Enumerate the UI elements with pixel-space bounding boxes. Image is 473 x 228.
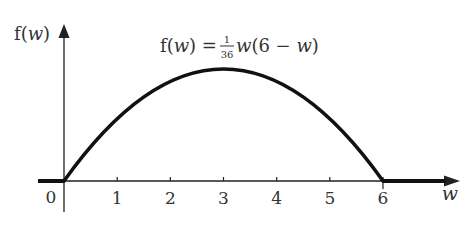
fraction-numerator: 1: [224, 34, 230, 45]
chart: 0 1 2 3 4 5 6 w f(w) f(w) = 1 36 w(6 − w…: [0, 0, 473, 228]
x-tick-label: 6: [378, 188, 389, 208]
x-tick-label: 3: [218, 188, 229, 208]
x-ticks: [117, 177, 383, 189]
svg-text:w(6 − w): w(6 − w): [236, 35, 319, 56]
y-axis-arrow-icon: [59, 24, 70, 38]
function-curve: [64, 69, 383, 181]
origin-label: 0: [46, 187, 57, 207]
y-axis-label: f(w): [14, 23, 50, 44]
x-tick-label: 5: [324, 188, 335, 208]
x-tick-label: 2: [165, 188, 176, 208]
x-tick-label: 1: [112, 188, 123, 208]
x-axis-label: w: [442, 182, 458, 204]
fraction-denominator: 36: [221, 49, 234, 60]
x-tick-label: 4: [271, 188, 282, 208]
function-annotation: f(w) = 1 36 w(6 − w): [160, 34, 319, 60]
svg-text:f(w) =: f(w) =: [160, 35, 217, 56]
